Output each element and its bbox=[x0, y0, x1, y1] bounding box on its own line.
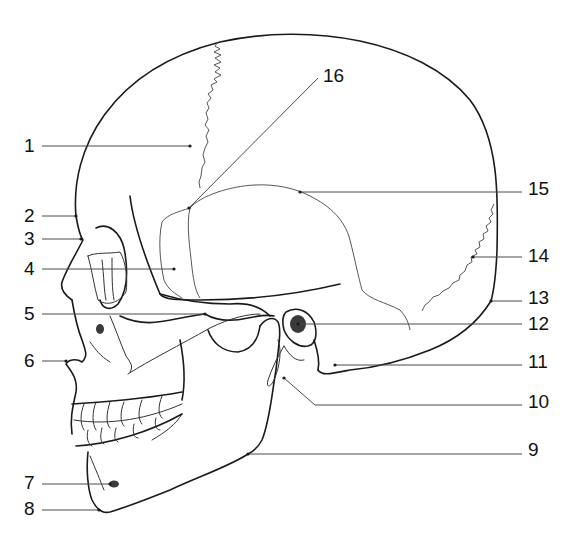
zygomatic-arch bbox=[160, 294, 274, 352]
label-number-10: 10 bbox=[528, 391, 549, 412]
label-13: 13 bbox=[489, 287, 549, 308]
target-dot-5 bbox=[203, 312, 206, 315]
mandible bbox=[87, 319, 279, 513]
label-9: 9 bbox=[246, 439, 538, 460]
target-dot-13 bbox=[489, 299, 492, 302]
target-dot-1 bbox=[188, 144, 191, 147]
label-12: 12 bbox=[296, 313, 549, 334]
label-14: 14 bbox=[471, 245, 549, 266]
target-dot-9 bbox=[246, 452, 249, 455]
target-dot-12 bbox=[296, 322, 299, 325]
label-15: 15 bbox=[298, 178, 549, 199]
target-dot-6 bbox=[64, 359, 67, 362]
target-dot-10 bbox=[282, 376, 285, 379]
label-number-7: 7 bbox=[24, 472, 35, 493]
target-dot-8 bbox=[97, 508, 100, 511]
label-number-6: 6 bbox=[24, 350, 35, 371]
label-number-5: 5 bbox=[24, 303, 35, 324]
target-dot-11 bbox=[333, 363, 336, 366]
label-8: 8 bbox=[24, 498, 101, 519]
label-16: 16 bbox=[187, 65, 344, 210]
orbit bbox=[88, 226, 127, 308]
teeth bbox=[72, 392, 182, 446]
label-1: 1 bbox=[24, 135, 192, 156]
target-dot-4 bbox=[172, 267, 175, 270]
target-dot-14 bbox=[471, 255, 474, 258]
target-dot-3 bbox=[79, 237, 82, 240]
target-dot-7 bbox=[108, 482, 111, 485]
label-number-11: 11 bbox=[528, 351, 548, 372]
leader-line-16 bbox=[189, 78, 318, 208]
label-number-15: 15 bbox=[528, 178, 549, 199]
label-number-16: 16 bbox=[323, 65, 344, 86]
infraorbital-foramen bbox=[96, 324, 104, 334]
label-number-9: 9 bbox=[528, 439, 539, 460]
label-number-1: 1 bbox=[24, 135, 35, 156]
label-10: 10 bbox=[282, 376, 549, 412]
label-number-14: 14 bbox=[528, 245, 550, 266]
label-number-4: 4 bbox=[24, 258, 35, 279]
label-number-3: 3 bbox=[24, 228, 35, 249]
labels-layer: 12345678910111213141516 bbox=[24, 65, 550, 519]
cranium-outline bbox=[62, 34, 498, 374]
target-dot-2 bbox=[74, 214, 77, 217]
label-number-12: 12 bbox=[528, 313, 549, 334]
skull-lateral-diagram: 12345678910111213141516 bbox=[0, 0, 577, 533]
label-3: 3 bbox=[24, 228, 83, 249]
coronal-suture bbox=[199, 42, 221, 188]
leader-line-10 bbox=[284, 378, 522, 405]
label-2: 2 bbox=[24, 205, 78, 226]
sphenoid-suture bbox=[160, 208, 190, 298]
label-number-8: 8 bbox=[24, 498, 35, 519]
squamosal-suture bbox=[190, 185, 410, 330]
label-6: 6 bbox=[24, 350, 68, 371]
target-dot-16 bbox=[187, 206, 190, 209]
target-dot-15 bbox=[298, 190, 301, 193]
label-number-2: 2 bbox=[24, 205, 35, 226]
label-number-13: 13 bbox=[528, 287, 549, 308]
temporal-line bbox=[130, 196, 340, 300]
